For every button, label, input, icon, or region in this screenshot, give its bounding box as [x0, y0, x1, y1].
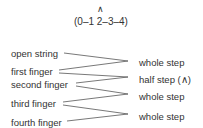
connector-lines	[0, 0, 203, 128]
